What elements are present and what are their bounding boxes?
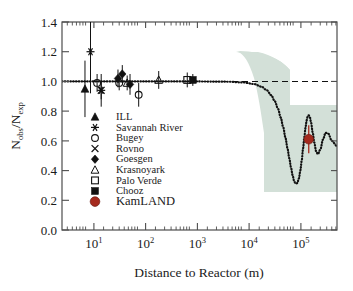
y-tick-label: 1.2 (41, 44, 57, 59)
y-tick-label: 0.4 (41, 163, 58, 178)
x-axis-title: Distance to Reactor (m) (134, 265, 263, 280)
plot-svg: 0.0 0.2 0.4 0.6 0.8 1.0 1.2 1.4 101 102 … (0, 0, 353, 291)
kamland-reactor-neutrino-figure: 0.0 0.2 0.4 0.6 0.8 1.0 1.2 1.4 101 102 … (0, 0, 353, 291)
y-tick-label: 0.0 (41, 223, 57, 238)
y-tick-label: 0.8 (41, 104, 57, 119)
band-right-block (264, 105, 337, 192)
legend-label: KamLAND (116, 194, 175, 208)
legend-label: Savannah River (116, 122, 183, 133)
y-tick-label: 1.0 (41, 74, 57, 89)
y-tick-label: 1.4 (41, 15, 58, 30)
legend-label: Krasnoyark (116, 164, 166, 175)
legend-label: Bugey (116, 132, 144, 143)
y-tick-label: 0.6 (41, 134, 58, 149)
legend-label: Palo Verde (116, 175, 162, 186)
legend-label: Rovno (116, 143, 144, 154)
legend-marker-filled-circle (90, 197, 100, 207)
legend-marker-filled-square (92, 188, 99, 195)
legend-label: Goesgen (116, 153, 153, 164)
legend-label: ILL (116, 111, 132, 122)
y-tick-label: 0.2 (41, 193, 57, 208)
